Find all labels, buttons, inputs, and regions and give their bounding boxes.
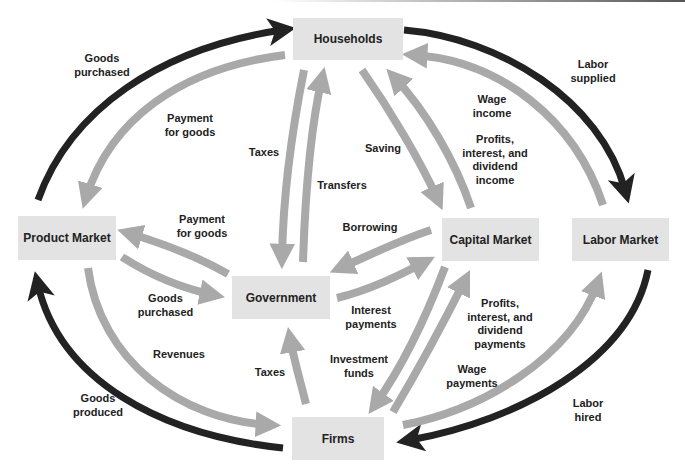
- label-payment-for-goods-gov: Payment for goods: [167, 213, 237, 240]
- label-borrowing: Borrowing: [337, 221, 403, 235]
- label-taxes-firms: Taxes: [252, 366, 288, 380]
- label-goods-produced: Goods produced: [68, 392, 128, 419]
- label-saving: Saving: [362, 142, 404, 156]
- node-product-market: Product Market: [18, 216, 116, 260]
- node-government: Government: [232, 276, 330, 319]
- node-households: Households: [293, 18, 403, 60]
- label-transfers: Transfers: [311, 179, 373, 193]
- label-investment-funds: Investment funds: [326, 353, 392, 380]
- label-interest-payments: Interest payments: [338, 304, 404, 331]
- arrow-transfers: [303, 78, 322, 262]
- arrow-taxes-firms: [290, 338, 306, 404]
- label-labor-hired: Labor hired: [567, 397, 609, 424]
- node-capital-market: Capital Market: [442, 218, 539, 261]
- label-revenues: Revenues: [148, 348, 210, 362]
- label-wage-payments: Wage payments: [442, 363, 502, 390]
- label-labor-supplied: Labor supplied: [563, 58, 623, 85]
- label-payment-for-goods-hh: Payment for goods: [155, 112, 225, 139]
- label-wage-income: Wage income: [467, 93, 517, 120]
- node-labor-market: Labor Market: [572, 218, 669, 261]
- label-profits-income: Profits, interest, and dividend income: [455, 133, 535, 187]
- label-taxes-hh: Taxes: [246, 146, 282, 160]
- label-profits-payments: Profits, interest, and dividend payments: [462, 297, 538, 351]
- label-goods-purchased-gov: Goods purchased: [133, 292, 198, 319]
- label-goods-purchased-hh: Goods purchased: [72, 52, 132, 79]
- node-firms: Firms: [292, 417, 384, 460]
